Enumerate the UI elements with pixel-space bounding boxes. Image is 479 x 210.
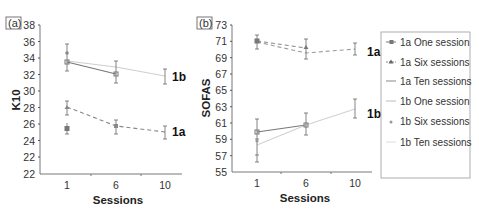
x-ticks: 1 6 10 [254,172,361,189]
x-axis-label: Sessions [93,194,144,206]
svg-text:67: 67 [215,68,227,80]
legend-item-1b-six: 1b Six sessions [390,116,470,127]
group-label-1b: 1b [367,107,381,121]
svg-text:10: 10 [349,177,361,189]
svg-text:1: 1 [64,179,70,191]
svg-text:61: 61 [215,117,227,129]
svg-text:30: 30 [23,85,35,97]
svg-text:28: 28 [23,102,35,114]
group-label-1a: 1a [172,125,186,139]
legend: 1a One session 1a Six sessions 1a Ten se… [381,32,472,178]
svg-text:6: 6 [303,177,309,189]
svg-text:57: 57 [215,150,227,162]
svg-text:69: 69 [215,52,227,64]
svg-text:1b One session: 1b One session [400,96,470,107]
svg-text:65: 65 [215,84,227,96]
svg-text:24: 24 [23,135,35,147]
panel-b-label: (b) [199,17,212,29]
svg-text:34: 34 [23,52,35,64]
svg-text:22: 22 [23,151,35,163]
svg-text:6: 6 [113,179,119,191]
svg-text:22: 22 [23,168,35,180]
y-axis-label: K10 [10,89,22,110]
svg-text:1b Six sessions: 1b Six sessions [400,116,469,127]
figure: (a) 38 36 34 32 30 28 26 24 22 22 1 6 10… [0,0,479,210]
svg-text:71: 71 [215,35,227,47]
svg-text:59: 59 [215,133,227,145]
y-axis-label: SOFAS [200,78,212,117]
panel-a: (a) 38 36 34 32 30 28 26 24 22 22 1 6 10… [6,17,186,207]
y-ticks: 73 71 69 67 65 63 61 59 57 55 [215,19,232,178]
group-label-1a: 1a [367,45,381,59]
svg-text:1: 1 [254,177,260,189]
svg-text:1b Ten sessions: 1b Ten sessions [400,137,472,148]
error-bars [255,35,357,162]
group-label-1b: 1b [172,70,186,84]
svg-text:73: 73 [215,19,227,31]
x-ticks: 1 6 10 [64,174,171,191]
panel-b: (b) 73 71 69 67 65 63 61 59 57 55 1 6 10… [197,17,381,205]
svg-text:32: 32 [23,69,35,81]
svg-text:1a One session: 1a One session [400,37,470,48]
svg-text:36: 36 [23,36,35,48]
svg-text:1a Six sessions: 1a Six sessions [400,57,469,68]
svg-text:55: 55 [215,166,227,178]
svg-text:10: 10 [159,179,171,191]
svg-text:26: 26 [23,118,35,130]
svg-text:1a Ten sessions: 1a Ten sessions [400,76,472,87]
svg-text:63: 63 [215,101,227,113]
panel-a-label: (a) [8,17,21,29]
x-axis-label: Sessions [280,192,331,204]
svg-text:38: 38 [23,19,35,31]
y-ticks: 38 36 34 32 30 28 26 24 22 22 [23,19,40,180]
